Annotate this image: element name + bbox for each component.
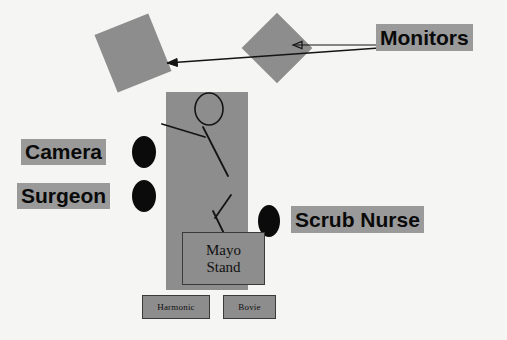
label-scrub-nurse: Scrub Nurse [291, 206, 424, 233]
label-surgeon: Surgeon [17, 183, 110, 209]
label-scrub-nurse-text: Scrub Nurse [295, 209, 420, 230]
mayo-stand-label-line2: Stand [206, 259, 240, 275]
monitor-left [94, 13, 171, 92]
surgeon-marker [132, 180, 156, 212]
camera-operator-marker [132, 136, 156, 168]
label-camera-text: Camera [25, 141, 102, 162]
harmonic-label: Harmonic [157, 302, 195, 312]
bovie-device: Bovie [223, 295, 276, 319]
label-surgeon-text: Surgeon [21, 185, 106, 206]
label-monitors: Monitors [376, 24, 473, 51]
bovie-label: Bovie [238, 302, 261, 312]
monitor-right [242, 13, 313, 84]
mayo-stand-label-line1: Mayo [206, 242, 241, 258]
label-camera: Camera [21, 139, 106, 165]
harmonic-device: Harmonic [142, 295, 210, 319]
label-monitors-text: Monitors [380, 27, 469, 48]
mayo-stand: Mayo Stand [182, 232, 265, 285]
or-layout-diagram: Mayo Stand Harmonic Bovie Monitors Camer… [0, 0, 507, 340]
